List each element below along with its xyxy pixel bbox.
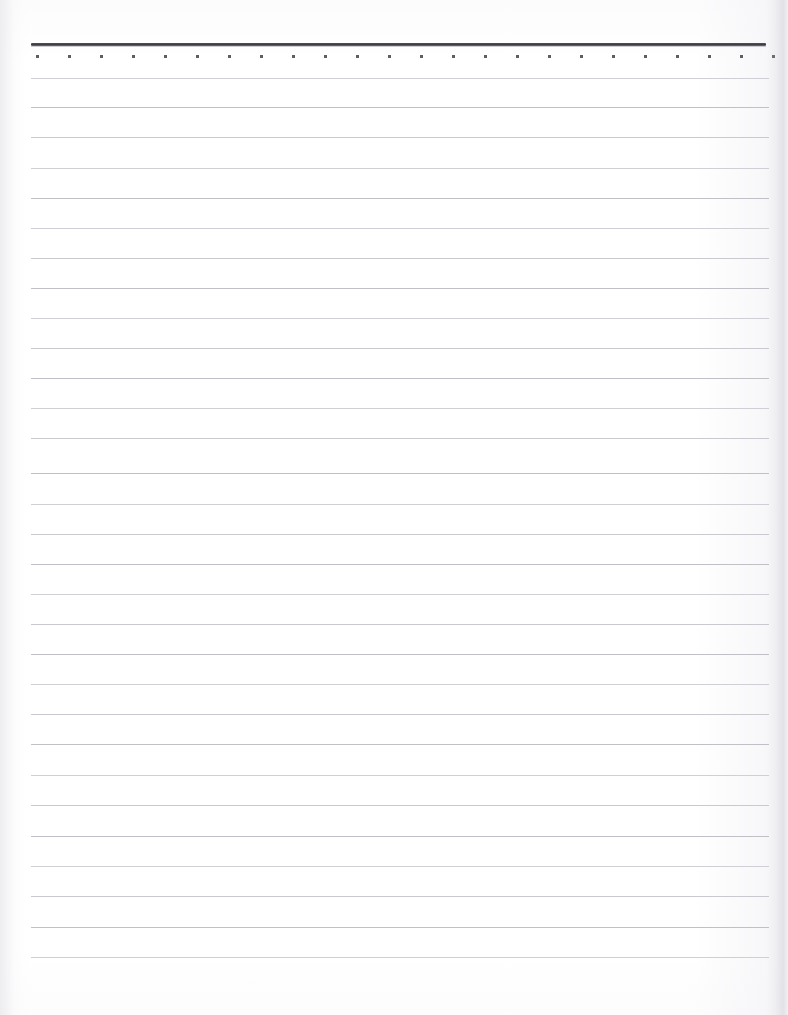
paper-surface	[0, 0, 788, 1015]
perforation-dot	[548, 55, 551, 58]
notebook-page	[0, 0, 788, 1015]
perforation-dot	[36, 55, 39, 58]
rule-line	[31, 714, 769, 715]
rule-line	[31, 168, 769, 169]
rule-line	[31, 836, 769, 837]
rule-line	[31, 378, 769, 379]
rule-line	[31, 564, 769, 565]
rule-line	[31, 473, 769, 474]
heavy-top-rule	[31, 43, 766, 46]
rule-line	[31, 408, 769, 409]
perforation-dot	[516, 55, 519, 58]
perforation-dot	[356, 55, 359, 58]
rule-line	[31, 805, 769, 806]
rule-line	[31, 775, 769, 776]
rule-line	[31, 348, 769, 349]
rule-line	[31, 78, 769, 79]
perforation-dot	[612, 55, 615, 58]
rule-line	[31, 594, 769, 595]
perforation-dot	[100, 55, 103, 58]
rule-line	[31, 137, 769, 138]
rule-line	[31, 866, 769, 867]
rule-line	[31, 198, 769, 199]
perforation-dot	[196, 55, 199, 58]
rule-line	[31, 228, 769, 229]
perforation-dot	[644, 55, 647, 58]
rule-line	[31, 107, 769, 108]
perforation-dot	[452, 55, 455, 58]
perforation-dot	[420, 55, 423, 58]
perforation-dot	[260, 55, 263, 58]
rule-line	[31, 318, 769, 319]
rule-line	[31, 896, 769, 897]
rule-line	[31, 744, 769, 745]
perforation-dot-row	[0, 55, 788, 58]
perforation-dot	[740, 55, 743, 58]
right-edge-shadow	[766, 0, 788, 1015]
perforation-dot	[708, 55, 711, 58]
perforation-dot	[228, 55, 231, 58]
perforation-dot	[676, 55, 679, 58]
rule-line	[31, 927, 769, 928]
rule-line	[31, 504, 769, 505]
perforation-dot	[164, 55, 167, 58]
perforation-dot	[772, 55, 775, 58]
rule-line	[31, 957, 769, 958]
left-edge-shadow	[0, 0, 14, 1015]
rule-line	[31, 534, 769, 535]
perforation-dot	[324, 55, 327, 58]
rule-line	[31, 288, 769, 289]
rule-line	[31, 684, 769, 685]
perforation-dot	[484, 55, 487, 58]
rule-line	[31, 624, 769, 625]
perforation-dot	[68, 55, 71, 58]
rule-line	[31, 258, 769, 259]
perforation-dot	[132, 55, 135, 58]
rule-line	[31, 654, 769, 655]
perforation-dot	[388, 55, 391, 58]
perforation-dot	[292, 55, 295, 58]
rule-line	[31, 438, 769, 439]
perforation-dot	[580, 55, 583, 58]
